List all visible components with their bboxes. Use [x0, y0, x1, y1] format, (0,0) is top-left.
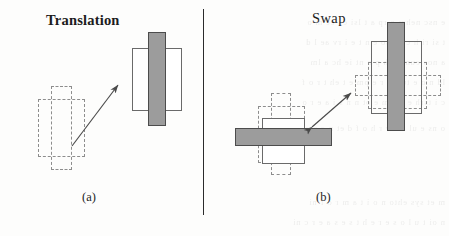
swap-double-arrow [0, 0, 449, 236]
figure-canvas: e nsc nehm o rp a t lsi ca ee m o t si r… [0, 0, 449, 236]
solid-vertical-bar [387, 22, 405, 131]
panel-b-caption: (b) [316, 190, 331, 205]
